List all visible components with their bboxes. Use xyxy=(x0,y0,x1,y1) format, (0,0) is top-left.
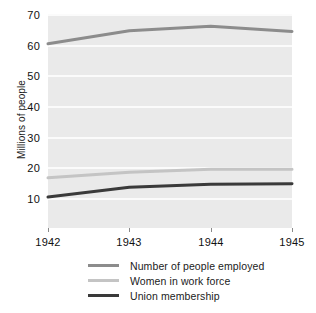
legend-item-number-of-people-employed: Number of people employed xyxy=(88,258,308,273)
y-tick-label-30: 30 xyxy=(0,132,40,144)
legend-swatch-icon xyxy=(88,279,119,282)
legend-swatch-icon xyxy=(88,264,119,267)
y-tick-label-20: 20 xyxy=(0,162,40,174)
legend-label-women-in-work-force: Women in work force xyxy=(130,275,230,287)
x-tick-label-1945: 1945 xyxy=(270,236,314,248)
chart-legend: Number of people employed Women in work … xyxy=(88,258,308,303)
legend-label-number-of-people-employed: Number of people employed xyxy=(130,260,264,272)
x-tick-mark-1945 xyxy=(292,228,293,232)
x-tick-mark-1944 xyxy=(211,228,212,232)
series-line-women-in-work-force xyxy=(48,169,292,178)
y-tick-label-50: 50 xyxy=(0,70,40,82)
x-tick-label-1942: 1942 xyxy=(26,236,70,248)
series-line-number-of-people-employed xyxy=(48,26,292,43)
line-chart-figure: Millions of people 70 60 50 40 30 20 10 … xyxy=(0,0,316,313)
x-tick-label-1943: 1943 xyxy=(107,236,151,248)
y-tick-label-40: 40 xyxy=(0,101,40,113)
x-tick-label-1944: 1944 xyxy=(189,236,233,248)
legend-item-union-membership: Union membership xyxy=(88,288,308,303)
y-tick-label-70: 70 xyxy=(0,9,40,21)
legend-item-women-in-work-force: Women in work force xyxy=(88,273,308,288)
series-lines xyxy=(48,14,292,228)
series-line-union-membership xyxy=(48,184,292,197)
legend-swatch-icon xyxy=(88,294,119,297)
y-tick-label-60: 60 xyxy=(0,40,40,52)
legend-label-union-membership: Union membership xyxy=(130,290,220,302)
x-tick-mark-1942 xyxy=(48,228,49,232)
plot-area xyxy=(48,14,292,228)
x-tick-mark-1943 xyxy=(129,228,130,232)
y-tick-label-10: 10 xyxy=(0,193,40,205)
